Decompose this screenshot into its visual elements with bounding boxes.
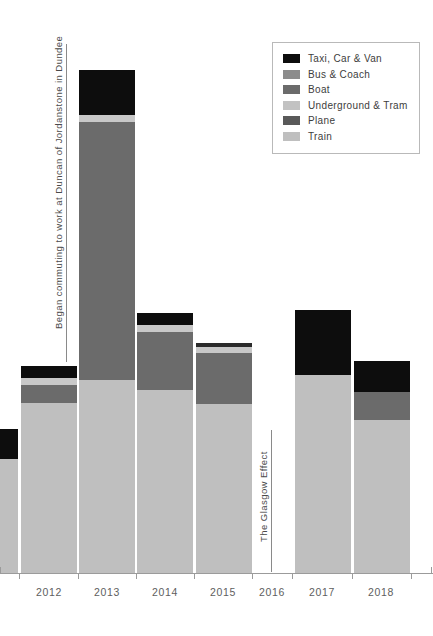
bar-2011[interactable]	[0, 429, 18, 573]
x-axis-tick-4	[252, 573, 253, 579]
bar-segment-2013-underground-tram	[79, 115, 135, 122]
legend: Taxi, Car & VanBus & CoachBoatUndergroun…	[272, 42, 420, 154]
bar-2013[interactable]	[79, 70, 135, 573]
legend-item-boat[interactable]: Boat	[283, 82, 411, 98]
bar-segment-2015-train	[196, 404, 252, 573]
chart-canvas: Began commuting to work at Duncan of Jor…	[0, 0, 433, 636]
bar-2012[interactable]	[21, 366, 77, 573]
bar-segment-2014-boat	[137, 332, 193, 390]
bar-2014[interactable]	[137, 313, 193, 573]
bar-segment-2011-taxi-car-van	[0, 429, 18, 459]
legend-item-bus-coach[interactable]: Bus & Coach	[283, 67, 411, 83]
annotation-left-label: Began commuting to work at Duncan of Jor…	[53, 36, 64, 329]
bar-segment-2012-train	[21, 403, 77, 573]
bar-segment-2018-taxi-car-van	[354, 361, 410, 392]
bar-2015[interactable]	[196, 343, 252, 573]
legend-swatch-icon	[283, 54, 300, 63]
legend-item-train[interactable]: Train	[283, 129, 411, 145]
x-axis-tick-7	[411, 573, 412, 579]
bar-segment-2013-boat	[79, 122, 135, 380]
bar-segment-2013-taxi-car-van	[79, 70, 135, 115]
bar-segment-2015-boat	[196, 353, 252, 404]
x-axis-cap-left	[0, 567, 1, 574]
x-axis-label-2012: 2012	[19, 586, 79, 598]
legend-item-label: Train	[308, 131, 332, 142]
bar-segment-2013-train	[79, 380, 135, 573]
legend-item-label: Underground & Tram	[308, 100, 408, 111]
legend-item-label: Boat	[308, 84, 330, 95]
bar-segment-2017-train	[295, 375, 351, 573]
x-axis-tick-1	[78, 573, 79, 579]
bar-2017[interactable]	[295, 310, 351, 573]
bar-segment-2011-train	[0, 459, 18, 573]
legend-item-label: Bus & Coach	[308, 69, 370, 80]
x-axis-tick-5	[292, 573, 293, 579]
x-axis-label-2018: 2018	[351, 586, 411, 598]
bar-segment-2012-underground-tram	[21, 378, 77, 385]
bar-segment-2014-train	[137, 390, 193, 573]
legend-item-label: Plane	[308, 115, 335, 126]
x-axis-tick-2	[136, 573, 137, 579]
legend-swatch-icon	[283, 132, 300, 141]
legend-item-label: Taxi, Car & Van	[308, 53, 382, 64]
x-axis-label-2013: 2013	[77, 586, 137, 598]
legend-swatch-icon	[283, 70, 300, 79]
legend-item-taxi-car-van[interactable]: Taxi, Car & Van	[283, 51, 411, 67]
x-axis-label-2014: 2014	[135, 586, 195, 598]
legend-item-underground-tram[interactable]: Underground & Tram	[283, 98, 411, 114]
bar-2018[interactable]	[354, 361, 410, 573]
x-axis-tick-0	[19, 573, 20, 579]
x-axis-label-2017: 2017	[292, 586, 352, 598]
bar-segment-2018-train	[354, 420, 410, 573]
x-axis-tick-6	[352, 573, 353, 579]
x-axis-line	[0, 573, 433, 574]
annotation-right-label: The Glasgow Effect	[258, 451, 269, 542]
legend-swatch-icon	[283, 101, 300, 110]
legend-item-plane[interactable]: Plane	[283, 113, 411, 129]
bar-segment-2012-taxi-car-van	[21, 366, 77, 378]
bar-segment-2012-boat	[21, 385, 77, 403]
x-axis-tick-3	[194, 573, 195, 579]
bar-segment-2018-boat	[354, 392, 410, 420]
legend-swatch-icon	[283, 116, 300, 125]
annotation-right-rule	[271, 430, 272, 572]
bar-segment-2014-underground-tram	[137, 325, 193, 332]
legend-swatch-icon	[283, 85, 300, 94]
bar-segment-2017-taxi-car-van	[295, 310, 351, 375]
x-axis-cap-right	[431, 567, 432, 574]
bar-segment-2014-taxi-car-van	[137, 313, 193, 325]
annotation-left-rule	[66, 44, 67, 362]
